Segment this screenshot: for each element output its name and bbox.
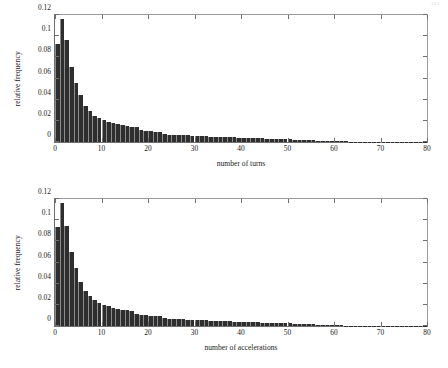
x-tick-top-accelerations-6 xyxy=(334,199,335,203)
x-tick-top-turns-2 xyxy=(148,15,149,19)
x-tick-label-turns-5: 50 xyxy=(284,145,291,152)
x-tick-label-accelerations-6: 60 xyxy=(330,329,337,336)
y-tick-right-accelerations-5 xyxy=(423,219,427,220)
y-tick-right-turns-1 xyxy=(423,120,427,121)
x-tick-top-turns-6 xyxy=(334,15,335,19)
y-tick-label-turns-2: 0.04 xyxy=(38,89,51,96)
y-tick-right-turns-4 xyxy=(423,56,427,57)
x-tick-top-turns-1 xyxy=(102,15,103,19)
y-tick-right-accelerations-1 xyxy=(423,304,427,305)
x-tick-label-accelerations-4: 40 xyxy=(237,329,244,336)
x-axis-title-accelerations: number of accelerations xyxy=(54,344,428,352)
y-tick-accelerations-2 xyxy=(55,283,59,284)
x-tick-label-accelerations-0: 0 xyxy=(53,329,57,336)
y-tick-label-accelerations-2: 0.04 xyxy=(38,273,51,280)
x-tick-label-turns-0: 0 xyxy=(53,145,57,152)
x-tick-top-accelerations-7 xyxy=(381,199,382,203)
x-tick-turns-4 xyxy=(241,138,242,142)
x-tick-top-turns-0 xyxy=(55,15,56,19)
y-tick-label-accelerations-5: 0.1 xyxy=(42,210,51,217)
x-tick-label-turns-4: 40 xyxy=(237,145,244,152)
x-tick-top-turns-3 xyxy=(195,15,196,19)
y-tick-label-turns-5: 0.1 xyxy=(42,26,51,33)
x-tick-label-turns-8: 80 xyxy=(423,145,430,152)
x-tick-label-accelerations-3: 30 xyxy=(191,329,198,336)
y-tick-turns-4 xyxy=(55,56,59,57)
y-tick-turns-1 xyxy=(55,120,59,121)
plot-area-accelerations: 00.020.040.060.080.10.120102030405060708… xyxy=(54,198,428,327)
x-tick-label-turns-2: 20 xyxy=(144,145,151,152)
x-tick-label-accelerations-7: 70 xyxy=(377,329,384,336)
y-axis-title-turns: relative frequency xyxy=(13,14,23,143)
x-tick-accelerations-0 xyxy=(55,322,56,326)
x-tick-turns-5 xyxy=(288,138,289,142)
y-tick-label-accelerations-4: 0.08 xyxy=(38,231,51,238)
x-tick-top-accelerations-2 xyxy=(148,199,149,203)
x-tick-label-turns-3: 30 xyxy=(191,145,198,152)
y-tick-accelerations-5 xyxy=(55,219,59,220)
x-tick-top-turns-8 xyxy=(427,15,428,19)
y-tick-label-turns-3: 0.06 xyxy=(38,68,51,75)
x-tick-top-accelerations-8 xyxy=(427,199,428,203)
x-tick-label-accelerations-5: 50 xyxy=(284,329,291,336)
y-tick-turns-3 xyxy=(55,78,59,79)
y-tick-right-turns-2 xyxy=(423,99,427,100)
x-tick-top-accelerations-0 xyxy=(55,199,56,203)
y-tick-turns-5 xyxy=(55,35,59,36)
x-tick-turns-0 xyxy=(55,138,56,142)
x-tick-top-turns-4 xyxy=(241,15,242,19)
x-axis-title-turns: number of turns xyxy=(54,160,428,168)
y-tick-label-turns-6: 0.12 xyxy=(38,4,51,11)
x-tick-top-accelerations-1 xyxy=(102,199,103,203)
y-tick-right-accelerations-4 xyxy=(423,240,427,241)
x-tick-label-turns-6: 60 xyxy=(330,145,337,152)
x-tick-accelerations-6 xyxy=(334,322,335,326)
x-tick-label-turns-1: 10 xyxy=(98,145,105,152)
y-tick-label-accelerations-3: 0.06 xyxy=(38,252,51,259)
x-tick-turns-2 xyxy=(148,138,149,142)
y-tick-turns-2 xyxy=(55,99,59,100)
chart-panel-turns: relative frequency 00.020.040.060.080.10… xyxy=(0,0,448,184)
x-tick-accelerations-7 xyxy=(381,322,382,326)
y-tick-accelerations-3 xyxy=(55,262,59,263)
x-tick-accelerations-1 xyxy=(102,322,103,326)
x-tick-accelerations-5 xyxy=(288,322,289,326)
x-tick-turns-3 xyxy=(195,138,196,142)
chart-panel-accelerations: relative frequency 00.020.040.060.080.10… xyxy=(0,184,448,368)
y-tick-right-accelerations-3 xyxy=(423,262,427,263)
x-tick-label-turns-7: 70 xyxy=(377,145,384,152)
y-tick-label-turns-4: 0.08 xyxy=(38,47,51,54)
x-tick-top-turns-7 xyxy=(381,15,382,19)
x-tick-top-accelerations-3 xyxy=(195,199,196,203)
y-axis-title-accelerations: relative frequency xyxy=(13,198,23,327)
x-tick-accelerations-8 xyxy=(427,322,428,326)
x-tick-turns-1 xyxy=(102,138,103,142)
y-tick-accelerations-1 xyxy=(55,304,59,305)
x-tick-accelerations-2 xyxy=(148,322,149,326)
x-tick-turns-6 xyxy=(334,138,335,142)
x-tick-label-accelerations-2: 20 xyxy=(144,329,151,336)
x-tick-accelerations-3 xyxy=(195,322,196,326)
y-tick-label-turns-1: 0.02 xyxy=(38,110,51,117)
y-tick-label-accelerations-6: 0.12 xyxy=(38,188,51,195)
y-tick-label-accelerations-1: 0.02 xyxy=(38,294,51,301)
y-tick-right-turns-3 xyxy=(423,78,427,79)
y-tick-label-accelerations-0: 0 xyxy=(47,315,51,322)
y-tick-label-turns-0: 0 xyxy=(47,131,51,138)
y-tick-right-turns-5 xyxy=(423,35,427,36)
bar-series-turns xyxy=(55,15,427,142)
x-tick-top-turns-5 xyxy=(288,15,289,19)
y-tick-accelerations-4 xyxy=(55,240,59,241)
x-tick-turns-7 xyxy=(381,138,382,142)
y-tick-right-accelerations-2 xyxy=(423,283,427,284)
x-tick-label-accelerations-8: 80 xyxy=(423,329,430,336)
x-tick-top-accelerations-5 xyxy=(288,199,289,203)
x-tick-turns-8 xyxy=(427,138,428,142)
plot-area-turns: 00.020.040.060.080.10.120102030405060708… xyxy=(54,14,428,143)
x-tick-accelerations-4 xyxy=(241,322,242,326)
x-tick-top-accelerations-4 xyxy=(241,199,242,203)
x-tick-label-accelerations-1: 10 xyxy=(98,329,105,336)
bar-series-accelerations xyxy=(55,199,427,326)
